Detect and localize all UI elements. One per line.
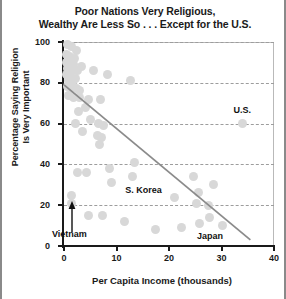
x-tick-mark-30 <box>221 245 223 251</box>
x-tick-label-40: 40 <box>254 254 286 263</box>
gridline-y-60 <box>64 124 274 125</box>
chart-title-line-2: Wealthy Are Less So . . . Except for the… <box>2 18 286 31</box>
annotation-u-s: U.S. <box>234 105 252 115</box>
y-tick-mark-80 <box>58 82 64 84</box>
y-tick-mark-20 <box>58 204 64 206</box>
y-tick-label-20: 20 <box>10 201 50 210</box>
gridline-y-80 <box>64 83 274 84</box>
annotation-s-korea: S. Korea <box>125 185 162 195</box>
x-tick-mark-0 <box>63 245 65 251</box>
y-tick-label-0: 0 <box>10 242 50 251</box>
annotation-vietnam: Vietnam <box>52 229 87 239</box>
x-tick-label-0: 0 <box>44 254 84 263</box>
chart-title-line-1: Poor Nations Very Religious, <box>2 5 286 18</box>
gridline-y-40 <box>64 164 274 165</box>
y-axis-label-line-1: Percentage Saying Religion <box>10 27 21 187</box>
chart-figure: Poor Nations Very Religious, Wealthy Are… <box>0 0 286 299</box>
y-tick-mark-100 <box>58 41 64 43</box>
x-tick-label-20: 20 <box>149 254 189 263</box>
chart-title: Poor Nations Very Religious, Wealthy Are… <box>2 5 286 31</box>
x-tick-mark-20 <box>168 245 170 251</box>
gridline-y-20 <box>64 205 274 206</box>
y-axis-label: Percentage Saying Religion Is Very Impor… <box>10 27 32 187</box>
y-tick-mark-60 <box>58 123 64 125</box>
x-tick-mark-10 <box>116 245 118 251</box>
x-axis-label: Per Capita Income (thousands) <box>42 275 282 286</box>
annotation-japan: Japan <box>197 231 223 241</box>
x-tick-label-10: 10 <box>97 254 137 263</box>
y-axis-line <box>62 40 64 248</box>
x-tick-label-30: 30 <box>202 254 242 263</box>
y-tick-mark-40 <box>58 163 64 165</box>
plot-area <box>64 42 274 246</box>
y-axis-label-line-2: Is Very Important <box>21 27 32 187</box>
gridline-y-100 <box>64 42 274 43</box>
x-tick-mark-40 <box>273 245 275 251</box>
